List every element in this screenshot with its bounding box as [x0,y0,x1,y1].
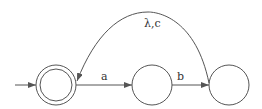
state-q0-outer [36,65,76,105]
state-q1[interactable] [132,65,172,105]
automaton-diagram: a b λ,c [0,0,262,109]
transition-b-label: b [177,70,184,83]
state-q2[interactable] [209,65,249,105]
state-q0-inner [40,69,72,101]
state-q0[interactable] [36,65,76,105]
transition-lambda-c-label: λ,c [144,17,161,30]
transition-a-label: a [101,70,108,83]
transition-lambda-c-edge [77,12,209,83]
